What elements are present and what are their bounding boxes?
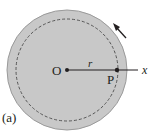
center-label: O	[52, 63, 61, 78]
center-point-o	[65, 68, 69, 72]
panel-label: (a)	[2, 110, 16, 125]
point-p	[115, 68, 119, 72]
radius-label: r	[88, 57, 93, 69]
rotating-disk-diagram: O r P x (a)	[0, 0, 158, 137]
point-label: P	[107, 72, 114, 87]
axis-label: x	[141, 63, 148, 77]
